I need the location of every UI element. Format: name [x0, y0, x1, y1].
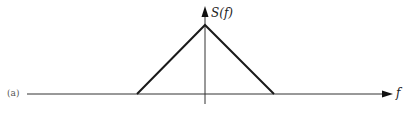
spectrum-diagram — [0, 0, 404, 113]
y-axis-label: S(f) — [211, 6, 233, 20]
x-axis-label: f — [396, 86, 400, 100]
s-axis-arrowhead-icon — [202, 6, 209, 17]
panel-label: (a) — [7, 88, 19, 98]
f-axis-arrowhead-icon — [382, 91, 393, 98]
